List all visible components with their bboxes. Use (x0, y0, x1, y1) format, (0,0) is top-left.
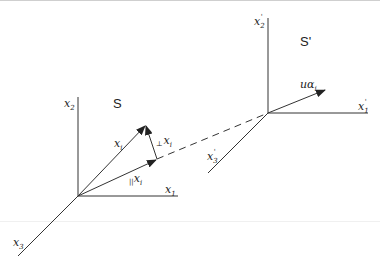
diagram-svg: S x2 x1 x3 xi ||xi ⊥xi S' x2' x1' x3' uα… (0, 0, 380, 265)
velocity-label: uαi (300, 78, 317, 93)
frame-s-axes (18, 97, 178, 256)
s-x3-label: x3 (13, 236, 24, 251)
velocity-vector (268, 90, 325, 113)
parallel-x-i-label: ||xi (129, 172, 142, 187)
vector-parallel-x-i (78, 160, 156, 196)
sp-x1-label: x1' (358, 98, 369, 115)
x-i-label: xi (114, 137, 122, 152)
s-x1-label: x1 (165, 183, 176, 198)
frame-s-label: S (113, 96, 122, 111)
sp-x3-label: x3' (207, 148, 218, 165)
perp-x-i-label: ⊥xi (156, 134, 172, 149)
frame-s-prime-label: S' (300, 34, 311, 49)
s-x3-axis (18, 196, 78, 256)
relativity-frames-diagram: S x2 x1 x3 xi ||xi ⊥xi S' x2' x1' x3' uα… (0, 0, 380, 265)
frame-s-prime-axes (208, 18, 368, 173)
vector-x-i (78, 126, 145, 196)
sp-x2-label: x2' (254, 13, 265, 30)
s-x2-label: x2 (64, 97, 75, 112)
